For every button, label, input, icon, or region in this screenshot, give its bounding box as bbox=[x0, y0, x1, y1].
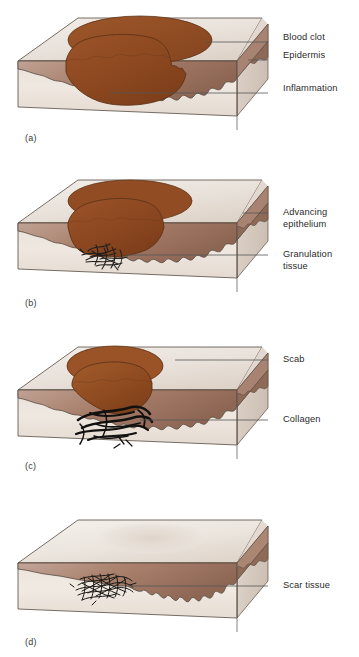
label-inflammation: Inflammation bbox=[283, 83, 337, 95]
panel-letter-b: (b) bbox=[25, 298, 37, 308]
panel-letter-a: (a) bbox=[25, 133, 37, 143]
panel-b: Advancing epithelium Granulation tissue … bbox=[0, 165, 359, 329]
panel-letter-c: (c) bbox=[25, 461, 36, 471]
panel-d: Scar tissue (d) bbox=[0, 493, 359, 657]
label-scar-tissue: Scar tissue bbox=[283, 580, 330, 592]
panel-c-illustration bbox=[0, 328, 359, 492]
panel-d-illustration bbox=[0, 493, 359, 657]
scar-depression-surface bbox=[97, 522, 207, 554]
blood-clot-cross-section bbox=[68, 198, 164, 256]
label-scab: Scab bbox=[283, 354, 305, 366]
panel-c: Scab Collagen (c) bbox=[0, 328, 359, 492]
label-granulation-tissue: Granulation tissue bbox=[283, 249, 332, 272]
wound-healing-figure: Blood clot Epidermis Inflammation (a) bbox=[0, 0, 359, 657]
label-epidermis: Epidermis bbox=[283, 50, 325, 62]
label-collagen: Collagen bbox=[283, 414, 321, 426]
panel-a-illustration bbox=[0, 0, 359, 164]
label-advancing-epithelium: Advancing epithelium bbox=[283, 207, 327, 230]
panel-a: Blood clot Epidermis Inflammation (a) bbox=[0, 0, 359, 164]
panel-letter-d: (d) bbox=[25, 637, 37, 647]
panel-b-illustration bbox=[0, 165, 359, 329]
label-blood-clot: Blood clot bbox=[283, 32, 325, 44]
